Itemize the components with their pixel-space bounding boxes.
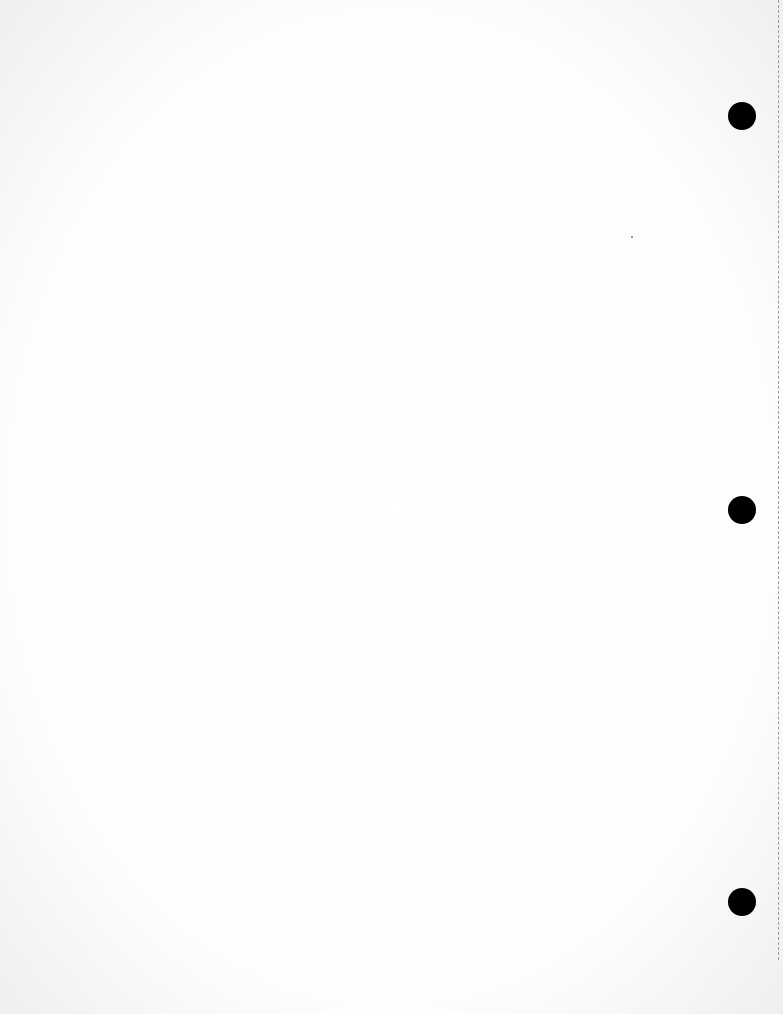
punch-hole-bottom — [728, 888, 756, 916]
dust-speck — [631, 236, 633, 238]
punch-hole-top — [728, 102, 756, 130]
blank-page — [0, 0, 783, 1014]
page-edge-line — [778, 0, 779, 960]
punch-hole-middle — [728, 496, 756, 524]
